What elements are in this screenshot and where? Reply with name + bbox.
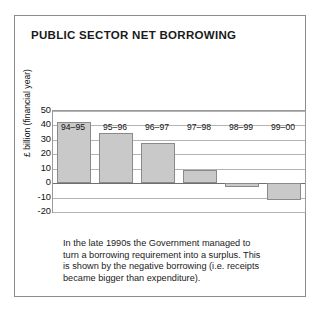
y-axis-tick-label: 30	[11, 134, 51, 144]
x-axis-tick-label: 94–95	[61, 122, 85, 132]
caption-line: In the late 1990s the Government managed…	[63, 238, 295, 250]
gridline	[53, 212, 305, 213]
gridline	[53, 154, 305, 155]
x-axis-tick-label: 96–97	[145, 122, 169, 132]
caption-line: became bigger than expenditure).	[63, 273, 295, 285]
y-axis-tick-label: 10	[11, 163, 51, 173]
gridline	[53, 125, 305, 126]
chart-caption: In the late 1990s the Government managed…	[63, 238, 295, 284]
bar	[183, 170, 217, 183]
x-axis-tick-label: 99–00	[271, 122, 295, 132]
gridline	[53, 111, 305, 112]
x-axis-tick-label: 97–98	[187, 122, 211, 132]
y-axis-tick-label: 0	[11, 177, 51, 187]
caption-line: is shown by the negative borrowing (i.e.…	[63, 261, 295, 273]
x-axis-tick-label: 95–96	[103, 122, 127, 132]
bar	[267, 183, 301, 200]
y-axis-tick-label: -20	[11, 206, 51, 216]
y-axis-tick-label: 40	[11, 119, 51, 129]
y-axis-tick-label: 50	[11, 105, 51, 115]
bar	[225, 183, 259, 187]
y-axis-tick-label: -10	[11, 192, 51, 202]
caption-line: turn a borrowing requirement into a surp…	[63, 250, 295, 262]
figure-frame: PUBLIC SECTOR NET BORROWING £ billion (f…	[14, 15, 306, 297]
y-axis-tick-label: 20	[11, 148, 51, 158]
plot-area	[52, 110, 306, 213]
bar	[99, 133, 133, 184]
gridline	[53, 169, 305, 170]
x-axis-tick-label: 98–99	[229, 122, 253, 132]
gridline	[53, 140, 305, 141]
bar	[141, 143, 175, 183]
